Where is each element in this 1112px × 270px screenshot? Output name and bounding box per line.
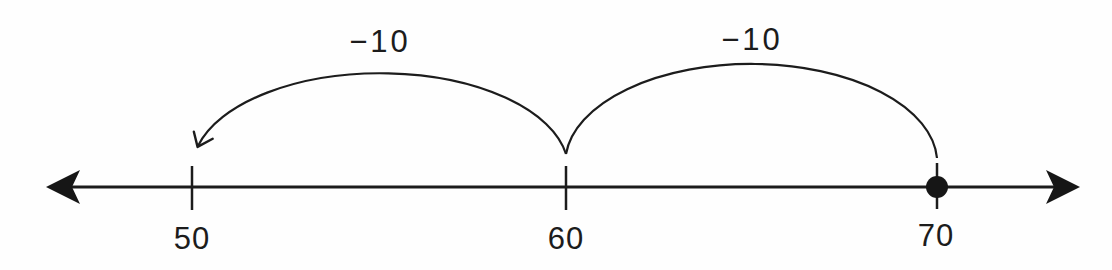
jump-arc-60-to-50: [198, 73, 566, 154]
jump-label-70-to-60: −10: [721, 22, 783, 57]
number-line-figure: −10 −10 50 60 70: [0, 0, 1112, 270]
jump-label-60-to-50: −10: [349, 24, 411, 59]
tick-label-60: 60: [548, 221, 584, 256]
point-marker-70: [926, 176, 948, 198]
number-line-canvas: −10 −10 50 60 70: [0, 0, 1112, 270]
jump-arc-70-to-60: [566, 64, 937, 158]
tick-label-50: 50: [174, 221, 210, 256]
tick-label-70: 70: [918, 218, 954, 253]
